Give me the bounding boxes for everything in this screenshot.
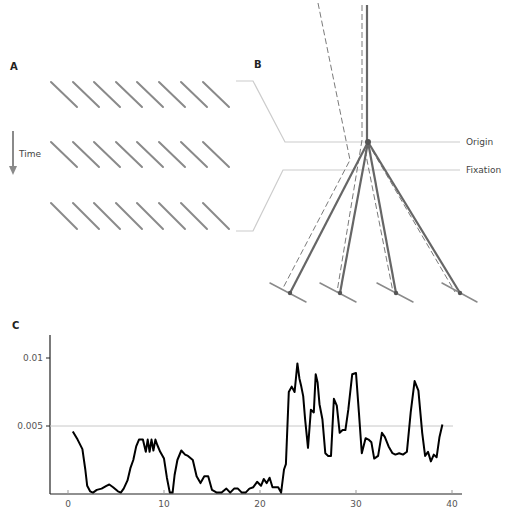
y-tick-label: 0.005	[17, 421, 43, 431]
time-arrow: Time	[9, 131, 41, 175]
y-ticks: 0.0050.01	[17, 353, 50, 431]
x-tick-label: 30	[350, 499, 362, 509]
target-bars	[270, 283, 477, 302]
origin-label: Origin	[466, 137, 493, 147]
x-ticks: 010203040	[65, 490, 458, 509]
origin-point	[365, 139, 371, 145]
figure: A Time B	[0, 0, 512, 515]
y-tick-label: 0.01	[23, 353, 43, 363]
origin-guide	[236, 81, 460, 142]
stimulus-row-2	[51, 142, 229, 167]
stimulus-row-1	[51, 82, 229, 107]
x-tick-label: 10	[158, 499, 170, 509]
panel-c-label: C	[12, 320, 19, 331]
x-tick-label: 0	[65, 499, 71, 509]
panel-a: A Time	[9, 61, 229, 229]
actual-paths	[290, 5, 460, 293]
connector-guides	[236, 81, 460, 231]
endpoint-markers	[288, 291, 462, 295]
signal-curve	[73, 363, 443, 492]
panel-c: C 0.0050.01 010203040	[12, 320, 462, 509]
stimulus-row-3	[51, 203, 229, 229]
x-tick-label: 40	[446, 499, 458, 509]
x-tick-label: 20	[254, 499, 266, 509]
panel-a-label: A	[10, 61, 18, 72]
fixation-label: Fixation	[466, 165, 501, 175]
panel-b: B Origin Fixation	[254, 3, 501, 302]
arrow-down-icon	[9, 166, 17, 175]
time-label: Time	[18, 149, 41, 159]
panel-b-label: B	[254, 59, 262, 70]
